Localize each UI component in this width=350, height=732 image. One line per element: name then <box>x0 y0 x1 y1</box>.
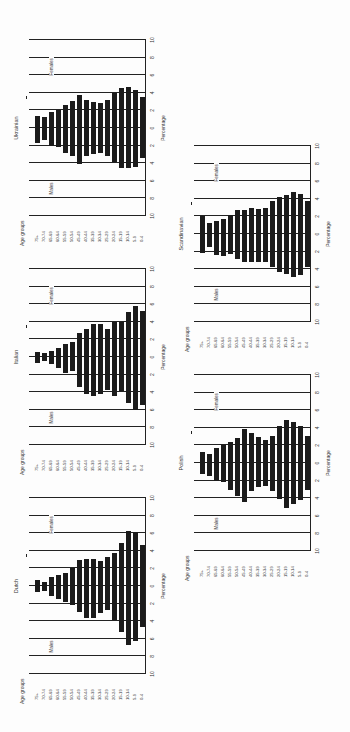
female-bar <box>42 582 47 586</box>
female-bar <box>277 197 282 234</box>
male-bar <box>119 357 124 391</box>
y-axis-title: Age groups <box>19 220 25 246</box>
age-group-label: 15-19 <box>283 553 288 577</box>
female-bar <box>84 100 89 128</box>
age-group-label: 0-4 <box>304 553 309 577</box>
male-bar <box>256 463 261 487</box>
age-group-label: 35-39 <box>255 324 260 348</box>
gridline <box>29 426 146 427</box>
gridline <box>29 303 146 304</box>
y-axis-title: Age groups <box>19 449 25 475</box>
male-bar <box>105 128 110 156</box>
x-tick-label: 10 <box>314 369 320 381</box>
age-group-label: 75+ <box>34 676 39 700</box>
female-bar <box>242 429 247 463</box>
x-tick-label: 8 <box>314 387 320 399</box>
males-label: Males <box>49 411 54 425</box>
female-bar <box>70 342 75 357</box>
x-tick-label: 4 <box>314 193 320 205</box>
male-bar <box>235 234 240 259</box>
gridline <box>194 392 311 393</box>
gridline <box>29 180 146 181</box>
gridline <box>29 74 146 75</box>
x-tick-label: 8 <box>314 158 320 170</box>
gridline <box>29 655 146 656</box>
age-group-label: 50-54 <box>234 553 239 577</box>
age-group-label: 45-49 <box>76 218 81 242</box>
x-tick-label: 2 <box>149 598 155 610</box>
age-group-label: 65-69 <box>213 553 218 577</box>
age-group-label: 55-59 <box>227 553 232 577</box>
female-bar <box>63 573 68 586</box>
female-bar <box>284 420 289 463</box>
age-group-label: 30-34 <box>97 676 102 700</box>
age-group-label: 35-39 <box>90 676 95 700</box>
female-bar <box>98 561 103 586</box>
age-group-label: 20-24 <box>276 324 281 348</box>
female-bar <box>270 201 275 234</box>
x-axis-line <box>310 145 311 322</box>
male-bar <box>63 128 68 153</box>
male-bar <box>242 234 247 262</box>
x-tick-label: 2 <box>314 439 320 451</box>
x-tick-label: 8 <box>149 510 155 522</box>
x-tick-label: 8 <box>149 421 155 433</box>
female-bar <box>133 532 138 586</box>
population-pyramid-italian: ItalianAge groupsMalesFemales75+70-7465-… <box>11 245 171 475</box>
female-bar <box>91 102 96 128</box>
gridline <box>194 180 311 181</box>
gridline <box>194 550 311 551</box>
x-axis-title: Percentage <box>325 146 331 322</box>
gridline <box>194 374 311 375</box>
female-bar <box>56 110 61 128</box>
gridline <box>29 268 146 269</box>
age-group-label: 25-29 <box>104 218 109 242</box>
male-bar <box>56 586 61 599</box>
age-group-label: 55-59 <box>62 676 67 700</box>
male-bar <box>119 128 124 168</box>
age-group-label: 40-44 <box>248 553 253 577</box>
age-group-label: 10-14 <box>290 324 295 348</box>
male-bar <box>249 463 254 491</box>
gridline <box>194 321 311 322</box>
x-tick-label: 2 <box>149 104 155 116</box>
x-axis-line <box>145 268 146 445</box>
age-group-label: 5-9 <box>297 553 302 577</box>
male-bar <box>84 586 89 618</box>
age-group-label: 75+ <box>199 324 204 348</box>
female-bar <box>221 445 226 463</box>
x-tick-label: 10 <box>149 34 155 46</box>
male-bar <box>35 128 40 143</box>
age-group-label: 15-19 <box>118 218 123 242</box>
age-group-label: 25-29 <box>269 324 274 348</box>
male-bar <box>263 463 268 486</box>
x-tick-label: 4 <box>149 157 155 169</box>
gridline <box>194 515 311 516</box>
gridline <box>29 409 146 410</box>
x-tick-label: 2 <box>149 369 155 381</box>
male-bar <box>207 234 212 247</box>
male-bar <box>35 357 40 363</box>
females-label: Females <box>49 286 54 305</box>
age-group-label: 30-34 <box>97 447 102 471</box>
male-bar <box>77 586 82 612</box>
age-group-label: 10-14 <box>125 218 130 242</box>
age-group-label: 70-74 <box>206 324 211 348</box>
female-bar <box>112 322 117 357</box>
age-group-label: 25-29 <box>104 447 109 471</box>
male-bar <box>256 234 261 262</box>
female-bar <box>249 208 254 234</box>
male-bar <box>126 357 131 403</box>
male-bar <box>228 463 233 490</box>
age-group-label: 5-9 <box>132 676 137 700</box>
female-bar <box>70 101 75 128</box>
male-bar <box>56 128 61 147</box>
age-group-label: 60-64 <box>220 553 225 577</box>
male-bar <box>228 234 233 254</box>
female-bar <box>214 221 219 234</box>
age-group-label: 70-74 <box>206 553 211 577</box>
x-tick-label: 6 <box>149 633 155 645</box>
male-bar <box>70 357 75 371</box>
age-group-label: 65-69 <box>48 676 53 700</box>
plot-area: MalesFemales <box>29 269 145 445</box>
